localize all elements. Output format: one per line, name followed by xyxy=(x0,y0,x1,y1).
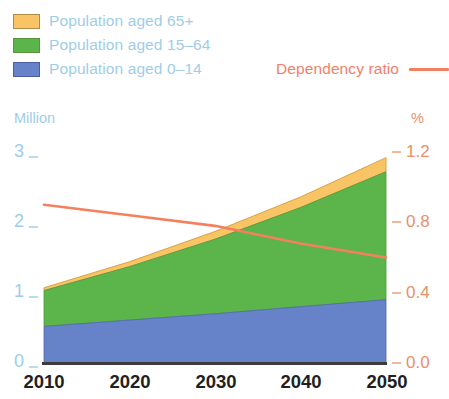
x-axis-tick-2010: 2010 xyxy=(23,371,64,393)
x-axis-tick-2040: 2040 xyxy=(280,371,321,393)
x-axis-tick-2050: 2050 xyxy=(366,371,407,393)
stacked-areas xyxy=(44,158,386,363)
x-axis-tick-2030: 2030 xyxy=(195,371,236,393)
x-axis-tick-2020: 2020 xyxy=(109,371,150,393)
x-axis-baseline xyxy=(42,362,387,365)
